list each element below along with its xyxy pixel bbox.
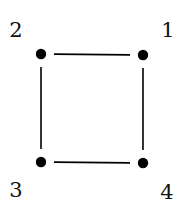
graph-svg: 1234	[0, 0, 187, 204]
node-label-2: 2	[9, 18, 22, 42]
node-label-1: 1	[161, 18, 174, 42]
edges	[41, 54, 143, 163]
graph-diagram: 1234	[0, 0, 187, 204]
edge-2-1	[54, 54, 130, 55]
node-3	[36, 157, 46, 167]
edge-4-3	[54, 162, 130, 163]
node-2	[36, 49, 46, 59]
labels: 1234	[9, 18, 174, 204]
node-label-3: 3	[9, 178, 22, 202]
node-label-4: 4	[160, 180, 173, 204]
node-4	[138, 158, 148, 168]
nodes	[36, 49, 148, 168]
node-1	[138, 50, 148, 60]
